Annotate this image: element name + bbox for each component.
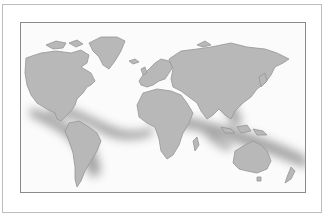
land [25, 37, 295, 187]
south-america [65, 121, 101, 187]
africa [137, 89, 193, 159]
greenland [89, 37, 125, 69]
new-zealand [285, 167, 295, 183]
world-map [21, 23, 306, 193]
map-frame [20, 22, 306, 193]
